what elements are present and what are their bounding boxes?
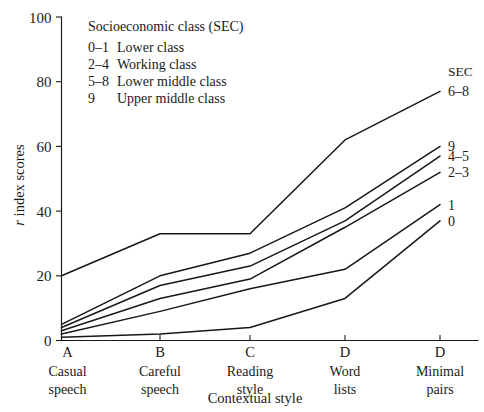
y-tick-label: 20 [37, 268, 52, 284]
x-tick-letter: D [340, 344, 350, 360]
legend-code-2: 5–8 [88, 74, 109, 89]
x-tick-letter: C [245, 344, 255, 360]
x-tick-letter: A [62, 344, 73, 360]
x-category-label: Casual [48, 364, 86, 379]
legend-code-1: 2–4 [88, 57, 109, 72]
x-category-label: speech [48, 382, 86, 397]
series-end-label-6-8: 6–8 [448, 84, 469, 99]
series-end-label-0: 0 [448, 214, 455, 229]
legend-desc-2: Lower middle class [117, 74, 227, 89]
x-category-label: Minimal [416, 364, 464, 379]
line-chart-svg: SEC6–894–52–310 020406080100 ACasualspee… [0, 0, 484, 412]
y-axis-tick-labels: 020406080100 [29, 10, 52, 350]
legend-desc-0: Lower class [117, 40, 184, 55]
y-axis-ticks [56, 17, 62, 341]
series-end-label-2-3: 2–3 [448, 165, 469, 180]
x-tick-letter: D [435, 344, 445, 360]
chart-legend: Socioeconomic class (SEC) 0–1Lower class… [88, 19, 244, 106]
series-end-label-4-5: 4–5 [448, 149, 469, 164]
series-line-1 [62, 205, 441, 334]
y-tick-label: 80 [37, 74, 52, 90]
x-category-label: Careful [139, 364, 181, 379]
chart-container: SEC6–894–52–310 020406080100 ACasualspee… [0, 0, 484, 412]
x-axis-tick-labels: ACasualspeechBCarefulspeechCReadingstyle… [48, 344, 464, 397]
x-axis-title: Contextual style [208, 390, 303, 406]
y-tick-label: 100 [29, 10, 52, 26]
legend-title: Socioeconomic class (SEC) [88, 19, 244, 35]
legend-desc-3: Upper middle class [117, 91, 225, 106]
y-tick-label: 40 [37, 204, 52, 220]
chart-series-lines [62, 91, 441, 337]
series-line-4-5 [62, 156, 441, 327]
series-end-label-1: 1 [448, 198, 455, 213]
y-tick-label: 60 [37, 139, 52, 155]
series-group-header: SEC [448, 64, 473, 79]
x-category-label: Word [330, 364, 361, 379]
y-axis-title-rest: index scores [11, 144, 27, 220]
x-tick-letter: B [155, 344, 165, 360]
series-line-9 [62, 146, 441, 324]
legend-desc-1: Working class [117, 57, 196, 72]
y-axis-title: r index scores [11, 144, 27, 226]
x-axis-ticks [160, 335, 440, 341]
y-tick-label: 0 [44, 333, 52, 349]
x-category-label: Reading [227, 364, 274, 379]
x-category-label: lists [334, 382, 357, 397]
series-end-labels: SEC6–894–52–310 [448, 64, 473, 228]
legend-code-3: 9 [88, 91, 95, 106]
x-category-label: speech [141, 382, 179, 397]
legend-code-0: 0–1 [88, 40, 109, 55]
x-category-label: pairs [426, 382, 453, 397]
